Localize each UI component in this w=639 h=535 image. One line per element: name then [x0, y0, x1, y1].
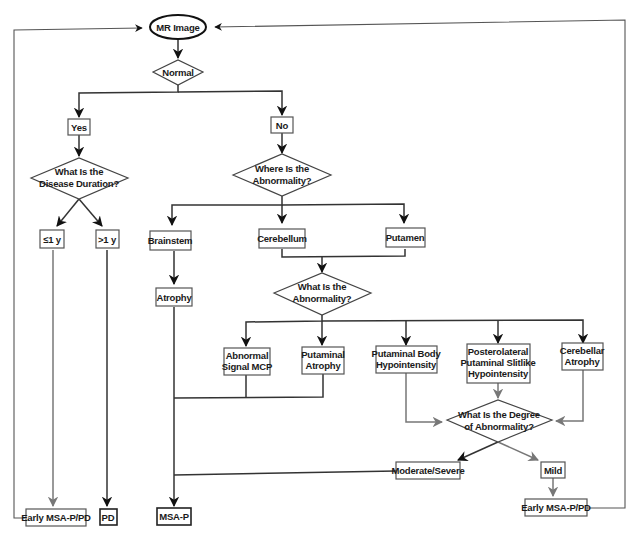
node-moderate-severe: Moderate/Severe: [391, 462, 464, 479]
decision-what-abnormality: What Is the Abnormality?: [274, 273, 371, 315]
node-cerebellum: Cerebellum: [257, 229, 307, 248]
svg-text:What Is the: What Is the: [55, 166, 103, 177]
outcome-pd: PD: [100, 509, 117, 525]
node-yes: Yes: [68, 119, 90, 135]
node-gt-1-year: >1 y: [96, 230, 119, 248]
node-atrophy: Atrophy: [156, 288, 192, 306]
svg-text:No: No: [276, 120, 289, 131]
svg-text:Hypointensity: Hypointensity: [468, 368, 529, 379]
svg-text:Abnormal: Abnormal: [226, 350, 269, 361]
decision-normal: Normal: [153, 60, 203, 85]
svg-text:Yes: Yes: [71, 122, 87, 133]
node-le-1-year: ≤1 y: [40, 230, 64, 248]
decision-degree-abnormality: What Is the Degree of Abnormality?: [447, 400, 552, 442]
svg-text:Where Is the: Where Is the: [255, 163, 309, 174]
node-posterolateral-slitlike-hypointensity: Posterolateral Putaminal Slitlike Hypoin…: [460, 344, 535, 383]
flowchart: MR Image Normal Yes No What Is the Disea…: [0, 0, 639, 535]
svg-text:Putaminal Slitlike: Putaminal Slitlike: [460, 357, 535, 368]
svg-text:What Is the Degree: What Is the Degree: [458, 409, 540, 420]
node-abnormal-signal-mcp: Abnormal Signal MCP: [222, 348, 273, 375]
svg-text:Hypointensity: Hypointensity: [376, 359, 437, 370]
decision-where-abnormality: Where Is the Abnormality?: [233, 154, 331, 196]
svg-text:>1 y: >1 y: [98, 234, 117, 245]
svg-text:Mild: Mild: [544, 465, 563, 476]
svg-text:≤1 y: ≤1 y: [43, 234, 62, 245]
decision-disease-duration: What Is the Disease Duration?: [31, 158, 128, 199]
node-no: No: [271, 117, 293, 133]
node-putaminal-atrophy: Putaminal Atrophy: [301, 347, 345, 374]
outcome-msa-p: MSA-P: [157, 508, 191, 525]
svg-text:Abnormality?: Abnormality?: [253, 175, 312, 186]
svg-text:Disease Duration?: Disease Duration?: [39, 178, 119, 189]
svg-text:Normal: Normal: [162, 67, 194, 78]
svg-text:MSA-P: MSA-P: [159, 511, 189, 522]
svg-text:PD: PD: [102, 512, 115, 523]
svg-text:Brainstem: Brainstem: [148, 235, 193, 246]
outcome-early-msa-p-pd-left: Early MSA-P/PD: [21, 509, 91, 526]
svg-text:Atrophy: Atrophy: [156, 292, 192, 303]
svg-text:Cerebellum: Cerebellum: [257, 233, 307, 244]
svg-text:Posterolateral: Posterolateral: [468, 346, 529, 357]
svg-text:Putamen: Putamen: [386, 232, 425, 243]
svg-text:What Is the: What Is the: [298, 281, 346, 292]
connectors: [14, 20, 625, 518]
outcome-early-msa-p-pd-right: Early MSA-P/PD: [521, 499, 591, 516]
svg-text:MR Image: MR Image: [156, 22, 199, 33]
svg-text:Putaminal Body: Putaminal Body: [372, 348, 442, 359]
start-node-mr-image: MR Image: [150, 15, 206, 39]
svg-text:Cerebellar: Cerebellar: [560, 345, 605, 356]
svg-text:of Abnormality?: of Abnormality?: [464, 421, 534, 432]
node-putamen: Putamen: [386, 228, 425, 247]
svg-text:Atrophy: Atrophy: [564, 356, 600, 367]
node-brainstem: Brainstem: [148, 231, 193, 250]
svg-text:Abnormality?: Abnormality?: [293, 293, 352, 304]
node-putaminal-body-hypointensity: Putaminal Body Hypointensity: [372, 346, 442, 373]
svg-text:Putaminal: Putaminal: [301, 349, 345, 360]
node-cerebellar-atrophy: Cerebellar Atrophy: [560, 343, 605, 370]
svg-text:Early MSA-P/PD: Early MSA-P/PD: [21, 512, 91, 523]
svg-text:Moderate/Severe: Moderate/Severe: [391, 465, 464, 476]
svg-text:Atrophy: Atrophy: [305, 360, 341, 371]
node-mild: Mild: [541, 462, 565, 478]
svg-text:Signal MCP: Signal MCP: [222, 361, 273, 372]
svg-text:Early MSA-P/PD: Early MSA-P/PD: [521, 502, 591, 513]
